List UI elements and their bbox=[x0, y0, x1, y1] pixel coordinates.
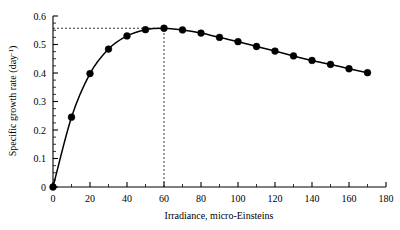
data-point: 70, 0.551 bbox=[179, 27, 186, 34]
x-axis-tick-labels: 020406080100120140160180 bbox=[51, 193, 394, 204]
y-tick-label: 0.5 bbox=[34, 39, 47, 50]
data-point: 110, 0.493 bbox=[253, 43, 260, 50]
y-axis-tick-labels: 00.10.20.30.40.50.6 bbox=[34, 11, 47, 193]
y-tick-label: 0.1 bbox=[34, 153, 47, 164]
x-tick-label: 100 bbox=[231, 193, 246, 204]
data-point: 100, 0.51 bbox=[235, 38, 242, 45]
data-point: 160, 0.415 bbox=[346, 65, 353, 72]
chart-figure: 00.10.20.30.40.50.6 02040608010012014016… bbox=[0, 0, 400, 230]
y-tick-label: 0.2 bbox=[34, 125, 47, 136]
data-point: 80, 0.54 bbox=[198, 30, 205, 37]
x-tick-label: 60 bbox=[159, 193, 169, 204]
data-point: 20, 0.398 bbox=[87, 70, 94, 77]
x-tick-label: 180 bbox=[379, 193, 394, 204]
x-tick-label: 80 bbox=[196, 193, 206, 204]
x-tick-label: 0 bbox=[51, 193, 56, 204]
x-axis-ticks bbox=[53, 182, 386, 187]
x-tick-label: 40 bbox=[122, 193, 132, 204]
data-point: 40, 0.53 bbox=[124, 33, 131, 40]
y-tick-label: 0.3 bbox=[34, 96, 47, 107]
y-tick-label: 0.6 bbox=[34, 11, 47, 22]
data-point: 90, 0.525 bbox=[216, 34, 223, 41]
x-tick-label: 120 bbox=[268, 193, 283, 204]
y-tick-label: 0.4 bbox=[34, 68, 47, 79]
data-point: 60, 0.557 bbox=[161, 25, 168, 32]
x-axis-title: Irradiance, micro-Einsteins bbox=[165, 210, 274, 221]
growth-rate-curve bbox=[53, 28, 368, 187]
x-tick-label: 160 bbox=[342, 193, 357, 204]
data-point: 30, 0.484 bbox=[105, 46, 112, 53]
growth-rate-irradiance-chart: 00.10.20.30.40.50.6 02040608010012014016… bbox=[0, 0, 400, 230]
y-tick-label: 0 bbox=[41, 182, 46, 193]
data-point: 50, 0.552 bbox=[142, 26, 149, 33]
data-point: 140, 0.444 bbox=[309, 57, 316, 64]
data-point: 170, 0.401 bbox=[364, 69, 371, 76]
data-point: 0, 0 bbox=[50, 184, 57, 191]
data-point: 130, 0.46 bbox=[290, 53, 297, 60]
data-point: 150, 0.43 bbox=[327, 61, 334, 68]
y-axis-title: Specific growth rate (day-1) bbox=[7, 46, 19, 157]
data-point: 10, 0.245 bbox=[68, 114, 75, 121]
x-tick-label: 20 bbox=[85, 193, 95, 204]
data-point: 120, 0.477 bbox=[272, 48, 279, 55]
y-axis-ticks bbox=[53, 16, 58, 187]
data-point-group: 0, 010, 0.24520, 0.39830, 0.48440, 0.535… bbox=[50, 25, 371, 191]
x-tick-label: 140 bbox=[305, 193, 320, 204]
